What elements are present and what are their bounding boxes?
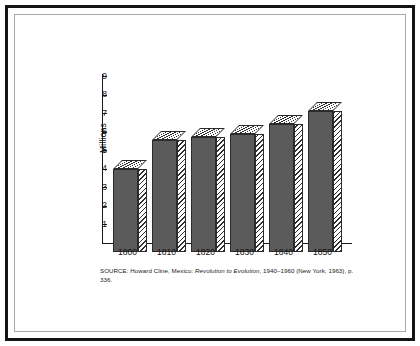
bar-top-face	[230, 125, 264, 134]
bar-1820	[191, 137, 216, 252]
bar-side-face	[294, 124, 303, 252]
page-canvas: Millions 123456789 180018101820183018401…	[0, 0, 420, 346]
y-tick-label: 3	[82, 183, 107, 192]
x-tick-label-1850: 1850	[301, 247, 345, 257]
bar-side-face	[177, 140, 186, 252]
bar-side-face	[333, 111, 342, 252]
bar-side-face	[216, 137, 225, 252]
y-tick-label: 6	[82, 127, 107, 136]
bar-side-face	[255, 134, 264, 252]
y-tick-label-text: 7	[91, 109, 107, 118]
y-tick-label: 4	[82, 164, 107, 173]
x-tick-label-1800: 1800	[106, 247, 150, 257]
source-note-prefix: SOURCE: Howard Cline, Mexico:	[100, 267, 195, 274]
y-tick-label: 5	[82, 146, 107, 155]
bar-top-face	[113, 160, 147, 169]
bar-top-face	[308, 102, 342, 111]
bar-side-face	[138, 169, 147, 252]
y-tick-label: 1	[82, 220, 107, 229]
y-tick-label-text: 9	[91, 72, 107, 81]
bar-top-face	[152, 131, 186, 140]
y-tick-label-text: 4	[91, 164, 107, 173]
y-tick-label: 9	[82, 72, 107, 81]
bar-top-face	[191, 128, 225, 137]
bar-1830	[230, 134, 255, 252]
y-tick-label: 7	[82, 109, 107, 118]
y-tick-label: 2	[82, 201, 107, 210]
y-tick-label: 8	[82, 90, 107, 99]
source-note: SOURCE: Howard Cline, Mexico: Revolution…	[100, 266, 355, 284]
bar-1810	[152, 140, 177, 252]
bar-1850	[308, 111, 333, 252]
x-tick-label-1840: 1840	[262, 247, 306, 257]
bar-top-face	[269, 115, 303, 124]
y-tick-label-text: 8	[91, 90, 107, 99]
source-note-title: Revolution to Evolution	[195, 267, 259, 274]
plot-area: Millions 123456789 180018101820183018401…	[0, 0, 420, 346]
x-tick-label-1820: 1820	[184, 247, 228, 257]
bar-1800	[113, 169, 138, 252]
x-tick-label-1830: 1830	[223, 247, 267, 257]
bar-1840	[269, 124, 294, 252]
x-tick-label-1810: 1810	[145, 247, 189, 257]
y-tick-label-text: 2	[91, 201, 107, 210]
bar-chart-figure: Millions 123456789 180018101820183018401…	[0, 0, 420, 346]
y-tick-label-text: 1	[91, 220, 107, 229]
y-tick-label-text: 3	[91, 183, 107, 192]
y-tick-label-text: 6	[91, 127, 107, 136]
y-tick-label-text: 5	[91, 146, 107, 155]
